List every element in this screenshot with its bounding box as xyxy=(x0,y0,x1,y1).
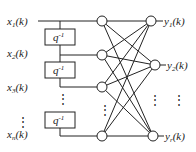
input-label-2: x2(k) xyxy=(6,47,28,61)
diagram-canvas: q-1 q-1 q-1 ⋮ ⋮ ⋮ ⋮ ⋮ x1(k) x2( xyxy=(0,0,196,152)
input-node-n xyxy=(97,131,107,141)
ellipsis-inputs: ⋮ xyxy=(17,115,29,129)
delay-block-2: q-1 xyxy=(45,62,75,78)
ellipsis-outputs: ⋮ xyxy=(173,93,185,107)
output-label-r: yr(k) xyxy=(164,130,185,144)
delay-block-1: q-1 xyxy=(45,29,75,45)
input-node-2 xyxy=(97,50,107,60)
output-node-r xyxy=(148,131,158,141)
output-node-2 xyxy=(150,60,160,70)
output-node-1 xyxy=(146,16,156,26)
input-node-1 xyxy=(97,16,107,26)
input-label-3: x3(k) xyxy=(6,81,28,95)
ellipsis-delay: ⋮ xyxy=(57,92,69,106)
ellipsis-output-nodes: ⋮ xyxy=(149,93,161,107)
input-node-3 xyxy=(97,82,107,92)
input-label-n: xn(k) xyxy=(6,128,28,142)
input-label-1: x1(k) xyxy=(6,15,28,29)
delay-block-3: q-1 xyxy=(45,112,75,128)
connections xyxy=(102,21,166,136)
neural-network-diagram: q-1 q-1 q-1 ⋮ ⋮ ⋮ ⋮ ⋮ x1(k) x2( xyxy=(0,0,196,152)
output-label-1: y1(k) xyxy=(163,15,185,29)
ellipsis-input-nodes: ⋮ xyxy=(99,103,111,117)
output-label-2: y2(k) xyxy=(166,59,188,73)
